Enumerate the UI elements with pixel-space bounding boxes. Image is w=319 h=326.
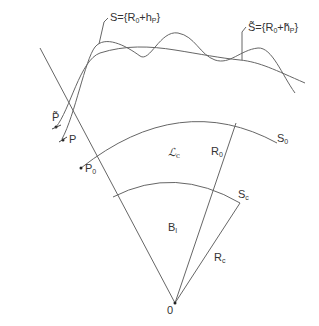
label-sub: 0: [284, 138, 288, 145]
label-text: }: [157, 11, 161, 23]
label-surface-s-tilde: S̃={R0+h̃P}: [248, 22, 298, 34]
surface-s-leader: [99, 18, 108, 44]
diagram-canvas: [0, 0, 319, 326]
surface-s-tilde-leader: [242, 27, 246, 60]
label-point-p0: P0: [85, 163, 96, 175]
label-sub: 0: [219, 151, 223, 158]
label-sub: 0: [92, 168, 96, 175]
radius-rc-line: [175, 203, 240, 303]
label-surface-s: S={R0+hP}: [110, 12, 160, 24]
label-text: +h̃: [277, 21, 290, 33]
label-text: +h: [139, 11, 152, 23]
label-text: }: [295, 21, 299, 33]
label-text: ℒ: [168, 146, 176, 159]
sphere-s0-arc: [81, 122, 277, 168]
surface-s-tilde-curve: [56, 47, 305, 127]
label-sub: c: [222, 257, 226, 264]
label-point-p: P: [69, 134, 76, 145]
label-sphere-sc: Sc: [238, 189, 249, 201]
label-radius-rc: Rc: [214, 252, 225, 264]
sphere-sc-arc: [113, 182, 240, 203]
label-text: S̃={R: [248, 21, 273, 33]
origin-marker: [174, 302, 177, 305]
label-point-p-tilde: P̃: [52, 112, 59, 123]
left-ray: [40, 48, 175, 303]
label-text: R: [211, 145, 219, 157]
label-sub: c: [176, 152, 180, 160]
label-sub: I: [175, 227, 177, 234]
label-radius-r0: R0: [211, 146, 223, 158]
label-ball-b: BI: [168, 222, 177, 234]
label-sub: c: [245, 194, 249, 201]
label-region-lc: ℒc: [168, 147, 180, 160]
label-origin: 0: [167, 305, 173, 316]
label-sphere-s0: S0: [277, 133, 288, 145]
label-text: S={R: [110, 11, 135, 23]
label-text: R: [214, 251, 222, 263]
point-p0-marker: [80, 167, 83, 170]
radius-r0-line: [175, 123, 236, 303]
